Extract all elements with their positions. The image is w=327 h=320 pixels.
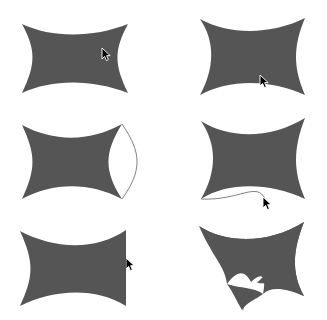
shape-panel-astroid-right-edge-flattened[interactable] [0, 214, 163, 320]
shape-panel-astroid-right-side-bulged[interactable] [163, 0, 327, 107]
astroid-shape-3[interactable] [22, 124, 122, 199]
shape-panel-astroid-four-cusp-wide[interactable] [0, 0, 163, 107]
ghost-outline-arc-right[interactable] [122, 124, 137, 199]
shape-panel-astroid-with-long-bottom-spike[interactable] [163, 214, 327, 320]
astroid-shape-5[interactable] [20, 230, 126, 306]
shape-panel-astroid-with-outlined-right-lobe[interactable] [0, 107, 163, 214]
shape-grid [0, 0, 327, 320]
shape-panel-astroid-with-outlined-bottom-cusp[interactable] [163, 107, 327, 214]
astroid-shape-1[interactable] [22, 24, 128, 93]
astroid-shape-6-spike[interactable] [227, 284, 263, 310]
astroid-shape-2[interactable] [200, 18, 305, 95]
astroid-shape-4[interactable] [201, 118, 305, 199]
astroid-shape-6-body[interactable] [199, 222, 304, 296]
